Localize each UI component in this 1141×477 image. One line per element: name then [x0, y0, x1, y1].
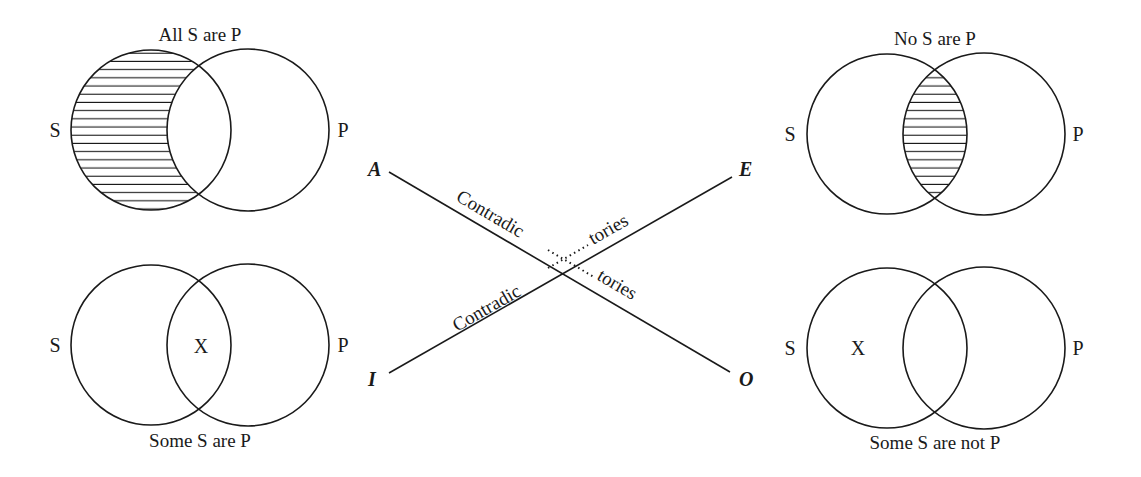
corner-label-i: I	[367, 368, 377, 390]
venn-title: No S are P	[894, 28, 976, 49]
dotted-connector-a-o	[548, 250, 594, 277]
label-contradic-ie: Contradic	[449, 280, 524, 335]
label-tories-ie: tories	[585, 209, 632, 248]
set-label-s: S	[784, 123, 795, 145]
dotted-connector-i-e	[548, 245, 588, 268]
venn-diagram-e: No S are P S P	[784, 28, 1083, 215]
shaded-region-intersection	[903, 53, 1065, 215]
circle-p	[167, 264, 329, 426]
label-tories-ao: tories	[594, 264, 641, 303]
venn-diagram-o: X S P Some S are not P	[784, 267, 1083, 453]
corner-label-e: E	[738, 158, 752, 180]
set-label-s: S	[49, 334, 60, 356]
venn-title: All S are P	[159, 24, 242, 45]
circle-p	[903, 267, 1065, 429]
set-label-p: P	[1072, 123, 1083, 145]
set-label-s: S	[784, 337, 795, 359]
venn-diagram-i: X S P Some S are P	[49, 264, 348, 451]
contradictories-cross: Contradic tories Contradic tories A E I …	[366, 158, 753, 390]
venn-diagram-a: All S are P S P	[0, 0, 1141, 477]
square-of-opposition-diagram: All S are P S P No S are P S P X S P Som…	[0, 0, 1141, 477]
set-label-s: S	[49, 119, 60, 141]
set-label-p: P	[1072, 337, 1083, 359]
corner-label-a: A	[366, 158, 381, 180]
shaded-region-s-only	[0, 0, 1141, 477]
set-label-p: P	[337, 119, 348, 141]
existence-marker-x: X	[194, 335, 209, 357]
circle-p	[167, 49, 329, 211]
set-label-p: P	[337, 334, 348, 356]
corner-label-o: O	[739, 368, 753, 390]
circle-s	[807, 268, 967, 428]
existence-marker-x: X	[851, 337, 866, 359]
label-contradic-ao: Contradic	[453, 185, 528, 241]
venn-title: Some S are P	[149, 430, 251, 451]
line-a-o	[389, 172, 730, 372]
venn-title: Some S are not P	[870, 432, 1001, 453]
